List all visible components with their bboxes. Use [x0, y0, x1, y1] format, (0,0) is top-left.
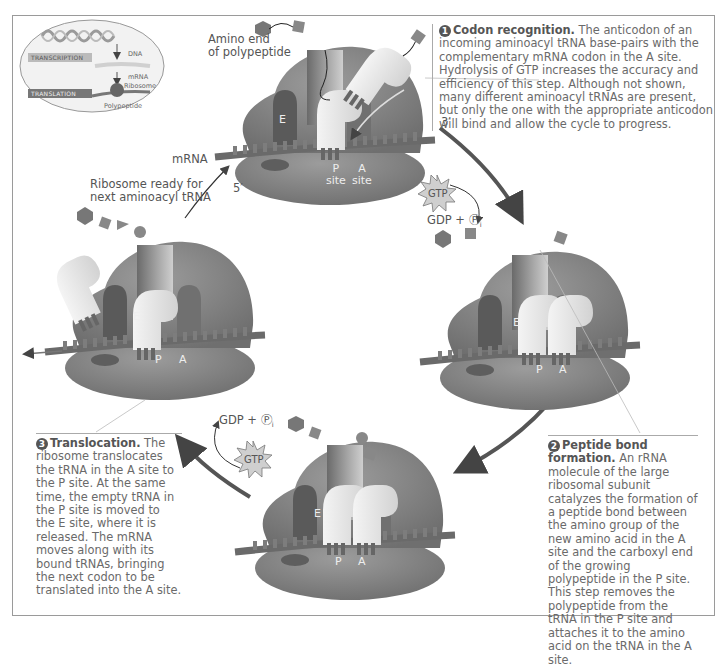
e-site-label-right: E	[513, 317, 520, 329]
step-2-text: An rRNA molecule of the large ribosomal …	[548, 451, 697, 666]
inset-polypeptide-label: Polypeptide	[104, 102, 142, 110]
inset-dna-label: DNA	[128, 50, 142, 58]
a-site-label-right: A	[559, 364, 567, 376]
p-site-label-top: Psite	[326, 163, 346, 187]
gtp-label-top: GTP	[428, 187, 448, 200]
step-1-title: Codon recognition.	[453, 23, 575, 37]
inset-translation-label: TRANSLATION	[28, 89, 92, 98]
step-1-caption: 1Codon recognition. The anticodon of an …	[432, 24, 714, 131]
gdp-pi-label-bottom: GDP + Ⓟi	[219, 414, 274, 432]
step-2-caption: 2Peptide bond formation. An rRNA molecul…	[548, 435, 698, 667]
step-1-text: The anticodon of an incoming aminoacyl t…	[439, 23, 713, 131]
five-prime-label: 5′	[233, 182, 243, 195]
step-number-3-icon: 3	[36, 438, 48, 450]
a-site-label-left: A	[179, 354, 187, 366]
gtp-label-bottom: GTP	[244, 453, 264, 466]
step-number-2-icon: 2	[548, 440, 560, 452]
step-3-text: The ribosome translocates the tRNA in th…	[36, 436, 181, 597]
e-site-label-bottom: E	[314, 508, 321, 520]
p-site-label-right: P	[536, 364, 543, 376]
a-site-label-bottom: A	[358, 556, 366, 568]
cycle-arrow-1-to-2	[440, 128, 520, 218]
ribosome-ready-label: Ribosome ready for next aminoacyl tRNA	[90, 178, 211, 204]
ribosome-right	[420, 228, 640, 410]
ribosome-bottom	[235, 416, 455, 600]
step-number-1-icon: 1	[439, 25, 451, 37]
a-site-label-top: Asite	[352, 163, 372, 187]
e-site-label-top: E	[279, 114, 286, 126]
amino-end-label: Amino end of polypeptide	[208, 33, 291, 59]
inset-ribosome-label: Ribosome	[124, 82, 156, 90]
step-3-caption: 3Translocation. The ribosome translocate…	[36, 433, 182, 598]
inset-transcription-label: TRANSCRIPTION	[28, 53, 92, 62]
step-3-title: Translocation.	[50, 436, 141, 450]
e-site-label-left: E	[133, 311, 140, 323]
mrna-label: mRNA	[172, 153, 208, 166]
gdp-pi-label-top: GDP + Ⓟi	[427, 214, 482, 232]
inset-overview: TRANSCRIPTION TRANSLATION DNA mRNA Ribos…	[20, 22, 165, 106]
p-site-label-bottom: P	[335, 556, 342, 568]
inset-mrna-label: mRNA	[128, 73, 148, 81]
p-site-label-left: P	[155, 354, 162, 366]
